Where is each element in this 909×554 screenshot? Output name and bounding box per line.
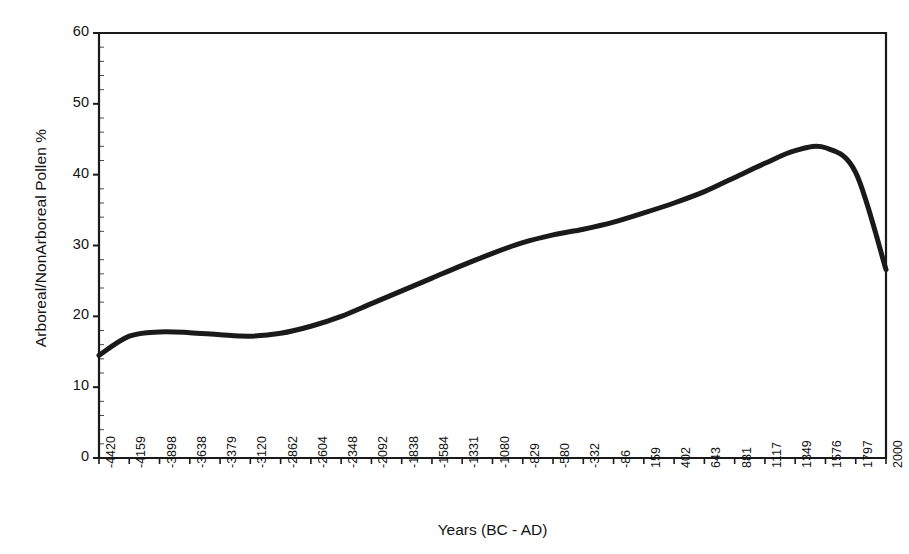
x-axis-tick-label: 402 <box>679 447 693 468</box>
x-axis-tick-label: -3638 <box>195 436 209 468</box>
x-axis-tick-label: 643 <box>709 447 723 468</box>
x-axis-tick-label: -332 <box>588 443 602 468</box>
x-axis-tick-label: 1349 <box>800 440 814 468</box>
x-axis-tick-label: -2092 <box>376 436 390 468</box>
x-axis-tick-label: -1331 <box>467 436 481 468</box>
x-axis-title: Years (BC - AD) <box>99 521 886 539</box>
x-axis-tick-label: -3379 <box>225 436 239 468</box>
x-axis-tick-label: -3898 <box>165 436 179 468</box>
x-axis-tick-label: 1797 <box>861 440 875 468</box>
x-axis-tick-label: 159 <box>649 447 663 468</box>
x-axis-tick-label: 2000 <box>891 440 905 468</box>
x-axis-tick-label: -2862 <box>286 436 300 468</box>
x-axis-tick-label: -580 <box>558 443 572 468</box>
x-axis-tick-label-group: -4420-4159-3898-3638-3379-3120-2862-2604… <box>0 0 909 554</box>
x-axis-tick-label: -2348 <box>346 436 360 468</box>
x-axis-tick-label: -1838 <box>407 436 421 468</box>
x-axis-tick-label: -86 <box>619 450 633 468</box>
x-axis-tick-label: -2604 <box>316 436 330 468</box>
x-axis-tick-label: 1576 <box>830 440 844 468</box>
x-axis-tick-label: -4159 <box>134 436 148 468</box>
x-axis-tick-label: -4420 <box>104 436 118 468</box>
pollen-percentage-line-chart: Arboreal/NonArboreal Pollen % 0102030405… <box>0 0 909 554</box>
x-axis-tick-label: -829 <box>528 443 542 468</box>
x-axis-tick-label: 881 <box>740 447 754 468</box>
x-axis-tick-label: 1117 <box>770 442 784 468</box>
x-axis-tick-label: -3120 <box>255 436 269 468</box>
x-axis-tick-label: -1080 <box>498 436 512 468</box>
x-axis-tick-label: -1584 <box>437 436 451 468</box>
